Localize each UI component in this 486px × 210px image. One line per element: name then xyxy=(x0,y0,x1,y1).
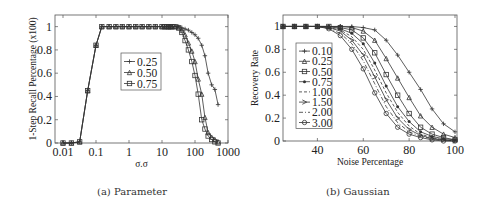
x-tick-label: 100 xyxy=(446,143,464,157)
figure: 00.20.40.60.810.010.11101001000σ.σ1-Step… xyxy=(0,0,486,210)
legend: 0.100.250.500.751.001.502.003.00 xyxy=(296,43,332,129)
y-tick-label: 0.4 xyxy=(265,88,280,102)
y-tick-label: 0 xyxy=(46,136,52,150)
caption-gaussian: (b) Gaussian xyxy=(326,186,390,197)
y-axis-label: 1-Step Recall Percentage (x100) xyxy=(28,17,39,140)
legend-label: 3.00 xyxy=(312,117,332,129)
x-tick-label: 10 xyxy=(156,145,168,159)
x-tick-label: 60 xyxy=(357,143,369,157)
y-tick-label: 0 xyxy=(274,134,280,148)
y-tick-label: 0.6 xyxy=(37,66,52,80)
y-tick-label: 0.2 xyxy=(37,113,52,127)
y-axis-label: Recovery Rate xyxy=(250,50,260,106)
y-tick-label: 0.4 xyxy=(37,89,52,103)
y-tick-label: 0.2 xyxy=(265,111,280,125)
x-axis-label: σ.σ xyxy=(135,159,148,169)
y-tick-label: 1 xyxy=(46,20,52,34)
x-tick-label: 100 xyxy=(186,145,204,159)
chart-gaussian: 00.20.40.60.81406080100Noise PercentageR… xyxy=(250,15,464,167)
x-tick-label: 40 xyxy=(311,143,323,157)
caption-parameter: (a) Parameter xyxy=(97,186,167,197)
legend: 0.250.500.75 xyxy=(121,53,161,90)
legend-label: 0.75 xyxy=(137,78,157,90)
y-tick-label: 0.6 xyxy=(265,65,280,79)
x-tick-label: 1 xyxy=(126,145,132,159)
x-tick-label: 1000 xyxy=(216,145,240,159)
chart-parameter: 00.20.40.60.810.010.11101001000σ.σ1-Step… xyxy=(28,15,240,169)
x-tick-label: 80 xyxy=(403,143,415,157)
y-tick-label: 0.8 xyxy=(37,43,52,57)
y-tick-label: 0.8 xyxy=(265,42,280,56)
x-tick-label: 0.1 xyxy=(89,145,104,159)
x-tick-label: 0.01 xyxy=(53,145,74,159)
y-tick-label: 1 xyxy=(274,19,280,33)
x-axis-label: Noise Percentage xyxy=(337,157,403,167)
